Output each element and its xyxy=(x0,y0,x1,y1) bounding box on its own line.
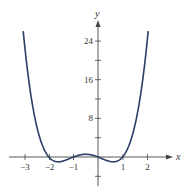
y-tick-label: 24 xyxy=(84,36,94,46)
x-tick-label: −1 xyxy=(69,162,79,172)
x-tick-labels: −3 −2 −1 1 2 xyxy=(20,162,150,172)
function-plot: x y −3 −2 −1 1 2 24 16 8 xyxy=(0,0,186,191)
x-axis-label: x xyxy=(175,151,181,162)
x-tick-label: 2 xyxy=(145,162,150,172)
function-curve xyxy=(23,31,148,162)
x-tick-label: −2 xyxy=(45,162,55,172)
y-axis-arrow-icon xyxy=(96,20,101,27)
y-axis-label: y xyxy=(94,8,100,19)
y-tick-label: 16 xyxy=(84,75,94,85)
x-axis-arrow-icon xyxy=(166,155,173,160)
x-tick-label: 1 xyxy=(121,162,126,172)
x-tick-label: −3 xyxy=(20,162,30,172)
y-tick-label: 8 xyxy=(89,113,94,123)
y-tick-labels: 24 16 8 xyxy=(84,36,94,123)
